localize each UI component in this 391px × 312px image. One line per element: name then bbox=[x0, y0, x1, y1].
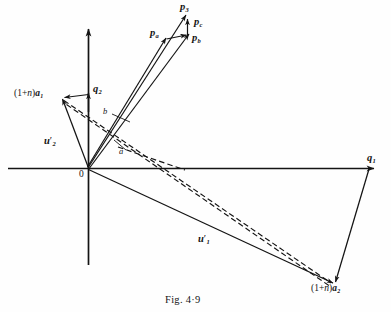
label-a1: (1+n)a1 bbox=[14, 89, 43, 100]
label-pa: pa bbox=[150, 28, 159, 39]
label-q2-sub: 2 bbox=[99, 88, 102, 95]
label-pc-base: p bbox=[194, 16, 199, 27]
label-pb-base: p bbox=[192, 32, 197, 43]
label-u2: u′2 bbox=[44, 136, 56, 147]
vector-diagram bbox=[0, 0, 391, 312]
u1-vector bbox=[89, 170, 334, 284]
label-pb-sub: b bbox=[198, 37, 201, 44]
label-q2: q2 bbox=[93, 84, 102, 95]
dashed-line-a1-to-a2-inner bbox=[67, 105, 330, 287]
label-a1-pre: (1+ bbox=[14, 88, 27, 98]
label-pa-sub: a bbox=[156, 32, 159, 39]
label-u1-sub: 1 bbox=[206, 238, 209, 245]
label-q1: q1 bbox=[367, 153, 376, 164]
pb-ray bbox=[90, 34, 190, 168]
label-point-b: b bbox=[103, 107, 107, 116]
label-a2-sub: 2 bbox=[337, 288, 340, 294]
axis-group bbox=[8, 29, 374, 265]
label-pb: pb bbox=[192, 33, 201, 44]
label-u2-sub: 2 bbox=[52, 140, 55, 147]
label-q1-sub: 1 bbox=[373, 157, 376, 164]
label-p3-base: p bbox=[180, 1, 185, 12]
label-pc: pc bbox=[194, 17, 202, 28]
point-leaders bbox=[112, 114, 130, 150]
figure-caption: Fig. 4·9 bbox=[165, 294, 201, 305]
label-a1-sub: 1 bbox=[40, 93, 43, 99]
figure-container: p3 pc pb pa (1+n)a1 q2 u′2 b a 0 q1 u′1 … bbox=[0, 0, 391, 312]
pa-ray bbox=[88, 38, 167, 167]
label-q1-base: q bbox=[367, 152, 372, 163]
label-p3: p3 bbox=[180, 2, 189, 13]
label-u1: u′1 bbox=[198, 234, 210, 245]
label-q2-base: q bbox=[93, 83, 98, 94]
label-a2-pre: (1+ bbox=[311, 283, 324, 293]
u2-a1-triangle bbox=[63, 93, 89, 168]
pa-to-pb-connector bbox=[167, 35, 187, 39]
label-pc-sub: c bbox=[200, 21, 203, 28]
dashed-line-a1-to-a2-outer bbox=[64, 101, 331, 284]
a1-vector bbox=[65, 95, 89, 98]
label-point-a: a bbox=[119, 147, 123, 156]
label-a2: (1+n)a2 bbox=[311, 284, 340, 295]
a2-vector bbox=[336, 169, 370, 282]
p-vector-bundle bbox=[88, 15, 190, 168]
u2-vector bbox=[63, 99, 89, 168]
dashed-construction-lines bbox=[64, 101, 331, 287]
label-p3-sub: 3 bbox=[186, 6, 189, 13]
u1-a2-triangle bbox=[89, 169, 370, 283]
label-origin: 0 bbox=[79, 170, 84, 180]
dashed-line-a-leader bbox=[118, 147, 185, 170]
label-pa-base: p bbox=[150, 27, 155, 38]
